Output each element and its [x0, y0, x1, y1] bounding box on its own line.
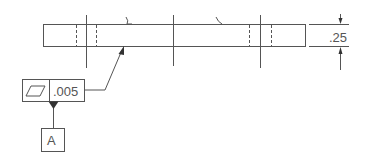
dimension-arrow-up [339, 47, 343, 54]
thickness-dimension: .25 [329, 30, 347, 45]
flatness-icon [26, 86, 45, 96]
leader-line [84, 50, 122, 90]
datum-triangle [49, 102, 59, 110]
tick-mark [126, 17, 132, 24]
tolerance-value: .005 [53, 84, 78, 99]
leader-arrow [119, 46, 125, 55]
dimension-arrow-down [339, 18, 343, 24]
technical-drawing: .25 .005 A [0, 0, 366, 162]
tick-mark [216, 17, 222, 24]
datum-label: A [47, 133, 56, 148]
part-outline [44, 25, 306, 47]
